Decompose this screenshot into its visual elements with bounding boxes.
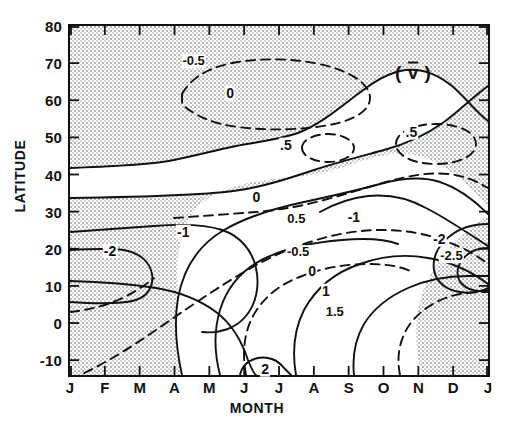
x-tick-2: M (133, 379, 146, 396)
contour-label-0p5: 0.5 (286, 212, 306, 226)
contour-label-neg2: -2 (432, 232, 446, 247)
v-bar-symbol: v (407, 63, 420, 82)
contour-label-1p5: 1.5 (325, 305, 345, 319)
figure-contour-plot: 80706050403020100-10 LATITUDE MONTH (0, 0, 514, 425)
contour-label-neg0p5: -0.5 (181, 54, 205, 68)
contour-label-0: 0 (225, 85, 235, 100)
contour-label-neg1: -1 (176, 225, 190, 240)
x-tick-1: F (100, 379, 109, 396)
contour-label-neg2: -2 (103, 243, 117, 258)
y-tick-20: 20 (45, 240, 62, 257)
contour-label-2: 2 (260, 362, 270, 377)
x-tick-12: J (484, 379, 492, 396)
contour-label-1: 1 (321, 284, 331, 299)
y-tick-10: 10 (45, 277, 62, 294)
x-tick-8: S (344, 379, 354, 396)
x-tick-3: A (169, 379, 180, 396)
contour-label-neg2p5: -2.5 (439, 249, 463, 263)
y-tick-50: 50 (45, 129, 62, 146)
x-tick-0: J (66, 379, 74, 396)
contour-plus05-ellipse-left (302, 134, 354, 162)
y-axis-title-wrap: LATITUDE (26, 0, 27, 425)
plot-area: -0.50.5.500.5-1-2-0.50-1-2-2.511.52 ( v … (68, 24, 490, 377)
contour-label-p5: .5 (279, 137, 293, 152)
x-tick-4: M (203, 379, 216, 396)
y-tick--10: -10 (40, 352, 62, 369)
x-tick-6: J (275, 379, 283, 396)
y-axis-title: LATITUDE (12, 140, 28, 213)
y-tick-0: 0 (53, 315, 62, 332)
contour-label-p5: .5 (405, 124, 419, 139)
y-tick-60: 60 (45, 92, 62, 109)
x-tick-7: A (308, 379, 319, 396)
y-tick-40: 40 (45, 166, 62, 183)
contour-label-0: 0 (307, 264, 317, 279)
x-tick-10: N (413, 379, 424, 396)
contour-label-neg1: -1 (347, 210, 361, 225)
y-tick-80: 80 (45, 18, 62, 35)
x-tick-11: D (448, 379, 459, 396)
y-tick-70: 70 (45, 55, 62, 72)
y-axis-tick-labels: 80706050403020100-10 (0, 0, 62, 425)
x-tick-9: O (378, 379, 390, 396)
y-tick-30: 30 (45, 203, 62, 220)
contour-label-0: 0 (251, 189, 261, 204)
contour-label-neg0p5: -0.5 (286, 246, 310, 260)
panel-label: ( v ) (395, 63, 431, 82)
x-axis-title: MONTH (0, 400, 514, 416)
x-tick-5: J (240, 379, 248, 396)
